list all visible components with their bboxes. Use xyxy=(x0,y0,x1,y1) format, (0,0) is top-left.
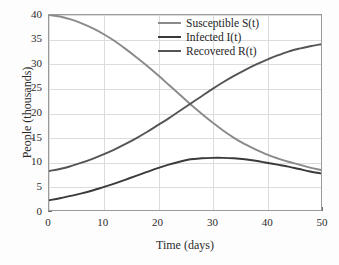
y-tick-label: 0 xyxy=(2,206,42,217)
x-tick-label: 50 xyxy=(302,217,339,228)
y-tick-label: 15 xyxy=(2,132,42,143)
x-tick-label: 20 xyxy=(138,217,178,228)
y-tick-mark xyxy=(48,211,52,212)
x-tick-label: 10 xyxy=(83,217,123,228)
legend-label: Susceptible S(t) xyxy=(186,17,259,29)
legend-line-swatch xyxy=(158,22,181,24)
legend-item-2[interactable]: Recovered R(t) xyxy=(158,44,308,58)
chart-figure: People (thousands) 051015202530354001020… xyxy=(0,0,339,265)
legend-line-swatch xyxy=(158,50,181,52)
x-axis-title: Time (days) xyxy=(48,238,322,253)
legend-item-0[interactable]: Susceptible S(t) xyxy=(158,16,308,30)
x-tick-label: 0 xyxy=(28,217,68,228)
series-line-2 xyxy=(49,44,321,171)
x-tick-mark xyxy=(322,207,323,211)
y-tick-label: 30 xyxy=(2,58,42,69)
y-tick-label: 20 xyxy=(2,107,42,118)
legend-label: Infected I(t) xyxy=(186,31,241,43)
legend-line-swatch xyxy=(158,36,181,38)
chart-legend: Susceptible S(t)Infected I(t)Recovered R… xyxy=(158,14,308,58)
legend-item-1[interactable]: Infected I(t) xyxy=(158,30,308,44)
x-tick-label: 40 xyxy=(247,217,287,228)
y-tick-label: 5 xyxy=(2,181,42,192)
legend-label: Recovered R(t) xyxy=(186,45,257,57)
y-tick-label: 40 xyxy=(2,9,42,20)
y-tick-label: 35 xyxy=(2,33,42,44)
y-tick-label: 10 xyxy=(2,156,42,167)
series-line-1 xyxy=(49,158,321,200)
x-tick-label: 30 xyxy=(192,217,232,228)
y-tick-label: 25 xyxy=(2,82,42,93)
